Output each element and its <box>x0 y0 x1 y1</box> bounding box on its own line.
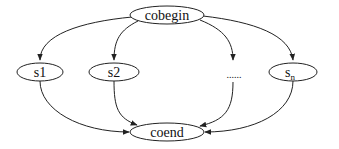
cobegin-coend-diagram: cobegin s1 s2 ...... sn coend <box>0 0 339 149</box>
edge-cobegin-s2 <box>114 21 138 60</box>
node-s1: s1 <box>17 63 63 81</box>
node-coend-label: coend <box>150 125 183 140</box>
edge-cobegin-sn <box>203 16 293 60</box>
edge-ellipsis-coend <box>200 82 233 126</box>
node-s1-label: s1 <box>34 65 46 80</box>
node-ellipsis: ...... <box>227 69 242 80</box>
node-coend: coend <box>130 123 204 141</box>
node-cobegin: cobegin <box>130 6 204 24</box>
node-s2-label: s2 <box>108 65 120 80</box>
node-s2: s2 <box>89 63 139 81</box>
ellipsis-label: ...... <box>227 69 242 80</box>
node-sn: sn <box>269 63 317 82</box>
edge-s1-coend <box>40 81 129 132</box>
edge-s2-coend <box>114 81 137 125</box>
node-cobegin-label: cobegin <box>145 8 189 23</box>
edge-sn-coend <box>205 81 293 132</box>
edge-cobegin-ellipsis <box>200 20 233 60</box>
